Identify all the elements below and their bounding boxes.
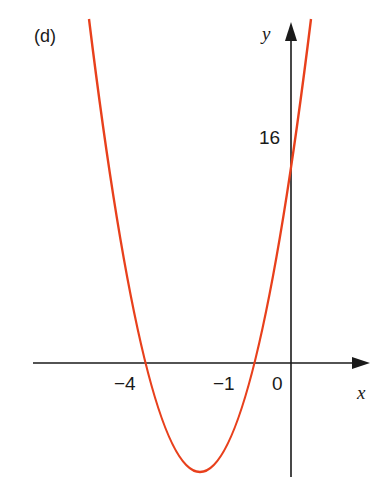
x-tick-0: 0 xyxy=(272,374,283,393)
y-axis-label: y xyxy=(262,24,270,43)
panel-label: (d) xyxy=(34,27,56,45)
x-axis-arrow-icon xyxy=(352,357,370,369)
x-axis-label: x xyxy=(357,383,365,402)
y-axis-arrow-icon xyxy=(285,22,297,41)
x-tick-neg1: −1 xyxy=(213,374,235,393)
y-tick-16: 16 xyxy=(259,128,280,147)
x-tick-neg4: −4 xyxy=(114,374,136,393)
parabola-curve xyxy=(89,19,311,472)
chart-canvas xyxy=(0,0,388,500)
